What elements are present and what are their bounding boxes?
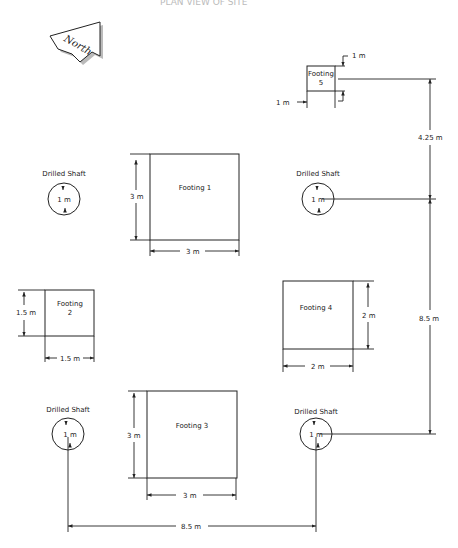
svg-text:Footing 3: Footing 3 bbox=[176, 422, 209, 430]
footing-1: Footing 1 3 m 3 m bbox=[130, 154, 239, 256]
svg-text:Footing: Footing bbox=[308, 70, 334, 78]
svg-text:1.5 m: 1.5 m bbox=[60, 355, 80, 363]
svg-text:Footing 1: Footing 1 bbox=[179, 184, 212, 192]
dim-4-25: 4.25 m bbox=[418, 134, 443, 142]
dim-8-5-vertical: 8.5 m bbox=[419, 315, 439, 323]
site-plan-diagram: PLAN VIEW OF SITE North Footing 5 1 m 1 … bbox=[0, 0, 458, 548]
svg-text:Drilled Shaft: Drilled Shaft bbox=[42, 170, 86, 178]
footing-2: Footing 2 1.5 m 1.5 m bbox=[16, 290, 94, 363]
svg-text:Footing 4: Footing 4 bbox=[300, 304, 333, 312]
svg-text:1 m: 1 m bbox=[276, 99, 290, 107]
footing-3: Footing 3 3 m 3 m bbox=[127, 391, 237, 500]
drilled-shaft-top-right: Drilled Shaft 1 m bbox=[296, 170, 436, 215]
dim-8-5-horizontal: 8.5 m bbox=[181, 523, 201, 531]
svg-text:3 m: 3 m bbox=[186, 248, 200, 256]
svg-text:5: 5 bbox=[319, 79, 323, 87]
svg-text:1 m: 1 m bbox=[311, 196, 325, 204]
svg-text:1.5 m: 1.5 m bbox=[16, 309, 36, 317]
svg-text:2: 2 bbox=[68, 309, 72, 317]
diagram-title: PLAN VIEW OF SITE bbox=[160, 0, 248, 7]
svg-text:Drilled Shaft: Drilled Shaft bbox=[296, 170, 340, 178]
footing-4: Footing 4 2 m 2 m bbox=[283, 281, 376, 372]
svg-text:3 m: 3 m bbox=[127, 432, 141, 440]
drilled-shaft-bottom-left: Drilled Shaft 1 m bbox=[46, 406, 90, 532]
svg-text:Drilled Shaft: Drilled Shaft bbox=[46, 406, 90, 414]
svg-text:3 m: 3 m bbox=[130, 193, 144, 201]
svg-text:1 m: 1 m bbox=[57, 196, 71, 204]
svg-text:1 m: 1 m bbox=[352, 52, 366, 60]
svg-text:2 m: 2 m bbox=[362, 312, 376, 320]
svg-text:1 m: 1 m bbox=[63, 431, 77, 439]
svg-text:Drilled Shaft: Drilled Shaft bbox=[294, 408, 338, 416]
footing-5: Footing 5 1 m 1 m bbox=[276, 52, 436, 108]
svg-text:3 m: 3 m bbox=[183, 492, 197, 500]
north-arrow-icon: North bbox=[50, 22, 103, 65]
svg-text:Footing: Footing bbox=[57, 300, 83, 308]
drilled-shaft-bottom-right: Drilled Shaft 1 m bbox=[294, 408, 436, 532]
svg-text:2 m: 2 m bbox=[311, 363, 325, 371]
drilled-shaft-top-left: Drilled Shaft 1 m bbox=[42, 170, 86, 215]
